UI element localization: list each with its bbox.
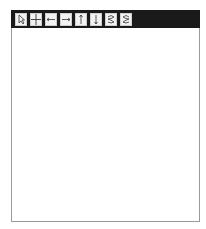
pan-right-button[interactable] <box>60 13 72 26</box>
arrow-down-icon <box>91 14 101 25</box>
arrow-up-icon <box>76 14 86 25</box>
graph-canvas[interactable] <box>0 0 206 229</box>
pan-up-button[interactable] <box>75 13 87 26</box>
crosshair-icon <box>31 14 41 25</box>
toolbar <box>11 10 200 28</box>
arrow-right-icon <box>61 14 71 25</box>
arrow-left-icon <box>46 14 56 25</box>
cursor-icon <box>16 14 26 25</box>
pan-down-button[interactable] <box>90 13 102 26</box>
pointer-tool-button[interactable] <box>15 13 27 26</box>
pan-left-button[interactable] <box>45 13 57 26</box>
crosshair-tool-button[interactable] <box>30 13 42 26</box>
zoom-in-button[interactable] <box>105 13 117 26</box>
zoom-in-icon <box>106 14 116 25</box>
zoom-out-icon <box>121 14 131 25</box>
zoom-out-button[interactable] <box>120 13 132 26</box>
